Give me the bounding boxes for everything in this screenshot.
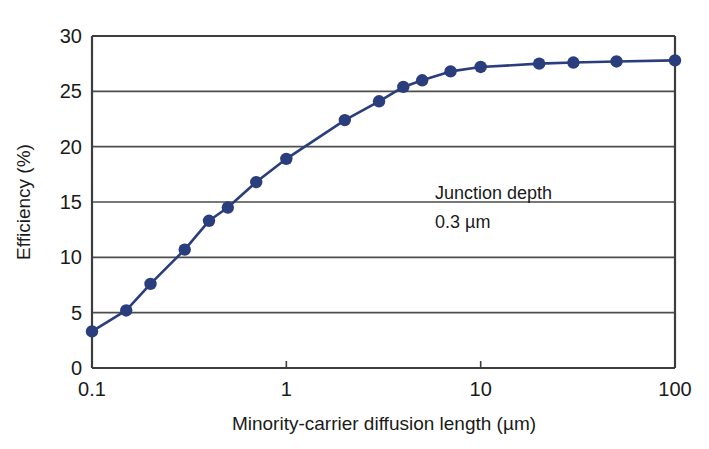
y-tick-label-25: 25 [60, 80, 82, 102]
data-point-marker [397, 81, 409, 93]
data-point-marker [222, 201, 234, 213]
data-point-marker [669, 54, 681, 66]
data-point-marker [179, 243, 191, 255]
y-tick-label-0: 0 [71, 357, 82, 379]
data-point-marker [416, 74, 428, 86]
data-point-marker [144, 278, 156, 290]
data-point-marker [280, 153, 292, 165]
x-tick-label-100: 100 [658, 378, 691, 400]
x-tick-label-0.1: 0.1 [78, 378, 106, 400]
x-tick-label-10: 10 [470, 378, 492, 400]
chart-canvas: 051015202530 0.1110100 Efficiency (%) Mi… [0, 0, 709, 449]
data-point-marker [339, 114, 351, 126]
figure-background [0, 0, 709, 449]
data-point-marker [444, 65, 456, 77]
annotation-line-1: Junction depth [435, 183, 552, 203]
y-axis-title: Efficiency (%) [13, 144, 34, 260]
annotation-line-2: 0.3 µm [435, 212, 490, 232]
data-point-marker [250, 176, 262, 188]
y-tick-label-15: 15 [60, 191, 82, 213]
y-tick-label-10: 10 [60, 246, 82, 268]
chart-figure: 051015202530 0.1110100 Efficiency (%) Mi… [0, 0, 709, 449]
data-point-marker [567, 56, 579, 68]
data-point-marker [474, 61, 486, 73]
data-point-marker [120, 304, 132, 316]
x-axis-title: Minority-carrier diffusion length (µm) [232, 413, 536, 434]
x-tick-label-1: 1 [281, 378, 292, 400]
y-tick-label-30: 30 [60, 25, 82, 47]
y-tick-label-5: 5 [71, 302, 82, 324]
data-point-marker [533, 57, 545, 69]
data-point-marker [203, 215, 215, 227]
data-point-marker [86, 325, 98, 337]
data-point-marker [610, 55, 622, 67]
data-point-marker [373, 95, 385, 107]
y-tick-label-20: 20 [60, 136, 82, 158]
